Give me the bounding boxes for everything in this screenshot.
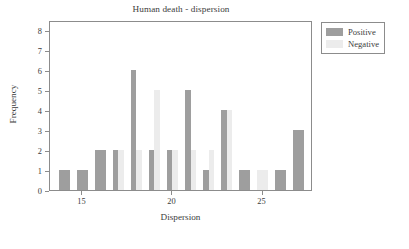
y-tick-label: 4 — [38, 107, 42, 116]
x-tick-label: 15 — [77, 197, 85, 206]
plot-area — [49, 21, 312, 191]
bar-negative — [172, 150, 178, 190]
bar-positive — [77, 170, 88, 190]
x-tick-label: 20 — [167, 197, 175, 206]
x-axis: Dispersion 152025 — [49, 191, 312, 231]
legend-item[interactable]: Negative — [326, 38, 379, 50]
bar-negative — [136, 150, 142, 190]
bars-layer — [50, 22, 311, 190]
chart-title: Human death - dispersion — [49, 4, 313, 14]
bar-negative — [227, 110, 233, 190]
legend-label: Positive — [348, 26, 376, 38]
bar-positive — [239, 170, 250, 190]
bar-positive — [95, 150, 106, 190]
y-tick-label: 7 — [38, 47, 42, 56]
bar-positive — [275, 170, 286, 190]
y-tick-label: 6 — [38, 67, 42, 76]
bar-negative — [257, 170, 268, 190]
y-axis-label: Frequency — [8, 44, 18, 164]
legend-swatch-positive — [326, 28, 343, 36]
chart-legend: PositiveNegative — [321, 22, 385, 54]
x-axis-label: Dispersion — [49, 212, 312, 222]
bar-positive — [59, 170, 70, 190]
x-tick-label: 25 — [257, 197, 265, 206]
y-tick-label: 3 — [38, 127, 42, 136]
y-tick-label: 8 — [38, 27, 42, 36]
y-tick-label: 0 — [38, 187, 42, 196]
chart-figure: Human death - dispersion Frequency 01234… — [0, 0, 409, 249]
bar-negative — [154, 90, 160, 190]
bar-negative — [118, 150, 124, 190]
x-tick-mark — [262, 191, 263, 195]
x-tick-mark — [171, 191, 172, 195]
bar-positive — [293, 130, 304, 190]
legend-label: Negative — [348, 38, 379, 50]
y-tick-label: 1 — [38, 167, 42, 176]
bar-negative — [209, 150, 215, 190]
legend-item[interactable]: Positive — [326, 26, 379, 38]
bar-negative — [191, 150, 197, 190]
y-tick-label: 5 — [38, 87, 42, 96]
x-tick-mark — [81, 191, 82, 195]
y-tick-label: 2 — [38, 147, 42, 156]
legend-swatch-negative — [326, 40, 343, 48]
y-axis: Frequency 012345678 — [0, 21, 49, 191]
